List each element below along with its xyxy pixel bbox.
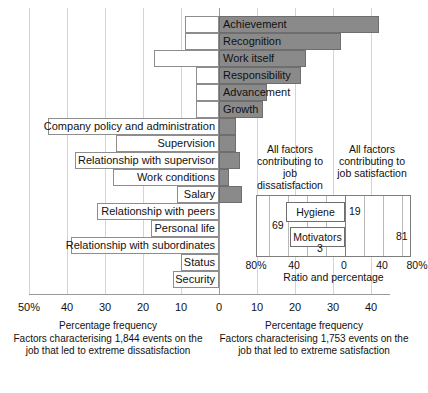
bar-row: Growth — [0, 101, 419, 118]
inset-tick-label: 40 — [376, 260, 388, 271]
category-label-box — [196, 101, 219, 118]
category-label-box: Security — [173, 271, 219, 288]
inset-value-hygiene-right: 19 — [349, 206, 361, 217]
category-label: Status — [184, 257, 215, 268]
category-label-box — [185, 16, 219, 33]
category-label: Growth — [219, 101, 258, 118]
category-label: Relationship with subordinates — [66, 240, 215, 251]
category-label-box — [185, 33, 219, 50]
category-label-box — [154, 50, 219, 67]
category-label: Supervision — [158, 138, 215, 149]
inset-gridline — [383, 196, 384, 256]
caption-right: Percentage frequency Factors characteris… — [216, 320, 412, 358]
x-tick-label: 30 — [99, 302, 111, 313]
x-tick-label: 40 — [365, 302, 377, 313]
category-label: Salary — [184, 189, 215, 200]
inset-zero-line — [345, 196, 346, 256]
inset-heading-satisfaction: All factors contributing to job satisfac… — [333, 143, 411, 179]
x-tick-label: 10 — [251, 302, 263, 313]
inset-tick-label: 80% — [406, 260, 427, 271]
category-label-box: Relationship with peers — [97, 203, 219, 220]
inset-value-motivators-right: 81 — [396, 231, 408, 242]
inset-tick-label: 0 — [341, 260, 347, 271]
inset-heading-dissatisfaction: All factors contributing to job dissatis… — [253, 143, 327, 191]
category-label: Personal life — [154, 223, 215, 234]
category-label-box: Supervision — [116, 135, 219, 152]
bar-row: Advancement — [0, 84, 419, 101]
category-label-box: Salary — [177, 186, 219, 203]
value-bar — [219, 169, 229, 186]
inset-tick-label: 40 — [288, 260, 300, 271]
caption-right-axis-title: Percentage frequency — [216, 320, 412, 333]
category-label-box: Status — [181, 254, 219, 271]
bar-row: Work itself — [0, 50, 419, 67]
category-label-box: Company policy and administration — [48, 118, 219, 135]
bar-row: Responsibility — [0, 67, 419, 84]
x-tick-label: 50% — [18, 302, 40, 313]
category-label: Achievement — [219, 16, 287, 33]
category-label: Relationship with peers — [101, 206, 215, 217]
x-tick-label: 0 — [216, 302, 222, 313]
category-label: Advancement — [219, 84, 290, 101]
x-tick-label: 40 — [61, 302, 73, 313]
inset-value-hygiene-left: 69 — [272, 220, 284, 231]
inset-frame: Hygiene Motivators 69 19 3 81 — [256, 195, 411, 257]
category-label: Relationship with supervisor — [78, 155, 215, 166]
x-tick-label: 20 — [289, 302, 301, 313]
category-label-box: Work conditions — [113, 169, 219, 186]
category-label-box — [196, 84, 219, 101]
category-label: Work itself — [219, 50, 274, 67]
caption-right-description: Factors characterising 1,753 events on t… — [216, 333, 412, 358]
inset-axis-label: Ratio and percentage — [256, 272, 411, 283]
inset-tick-label: 80% — [245, 260, 266, 271]
x-tick-label: 20 — [137, 302, 149, 313]
inset-gridline — [269, 196, 270, 256]
caption-left-description: Factors characterising 1,844 events on t… — [8, 333, 208, 358]
category-label: Work conditions — [137, 172, 215, 183]
bar-row: Achievement — [0, 16, 419, 33]
category-label-box: Relationship with supervisor — [75, 152, 219, 169]
bar-row: Recognition — [0, 33, 419, 50]
inset-gridline — [364, 196, 365, 256]
caption-left-axis-title: Percentage frequency — [8, 320, 208, 333]
caption-left: Percentage frequency Factors characteris… — [8, 320, 208, 358]
category-label: Recognition — [219, 33, 281, 50]
inset-bar-hygiene: Hygiene — [286, 202, 345, 222]
category-label-box: Personal life — [151, 220, 219, 237]
value-bar — [219, 135, 236, 152]
value-bar — [219, 186, 242, 203]
inset-value-motivators-left: 3 — [317, 243, 323, 254]
inset-ratio-chart: All factors contributing to job dissatis… — [253, 143, 413, 283]
category-label-box — [196, 67, 219, 84]
inset-gridline — [402, 196, 403, 256]
category-label: Responsibility — [219, 67, 291, 84]
x-tick-label: 10 — [175, 302, 187, 313]
x-axis-line — [29, 294, 390, 295]
bar-row: Company policy and administration — [0, 118, 419, 135]
value-bar — [219, 152, 240, 169]
category-label-box: Relationship with subordinates — [71, 237, 219, 254]
category-label: Security — [175, 274, 215, 285]
value-bar — [219, 118, 236, 135]
category-label: Company policy and administration — [44, 121, 215, 132]
x-tick-label: 30 — [327, 302, 339, 313]
